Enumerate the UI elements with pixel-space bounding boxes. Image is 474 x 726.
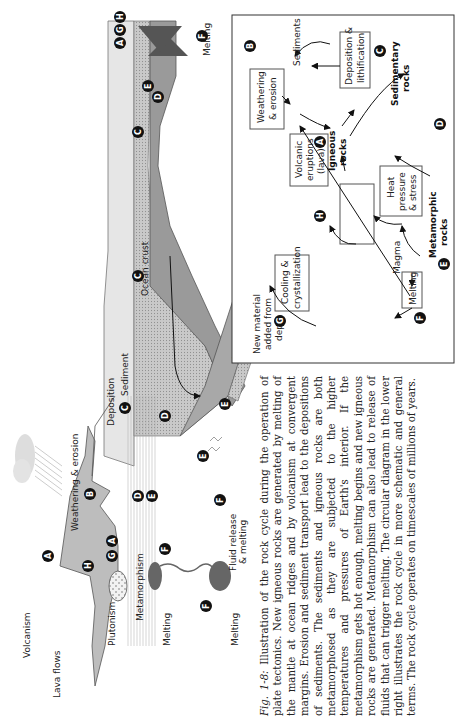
label-fluid-release-1: Fluid release <box>228 513 238 571</box>
cycle-badge-e: E <box>438 258 450 270</box>
cycle-metamorphic-1: Metamorphic <box>428 191 438 258</box>
badge-f-melt2: F <box>200 600 212 612</box>
cycle-heat-2: pressure <box>397 172 407 211</box>
cycle-heat-3: & stress <box>408 174 418 211</box>
label-metamorphism-left: Metamorphism <box>135 553 145 621</box>
badge-b-weathering: B <box>84 488 96 500</box>
cycle-metamorphic-2: rocks <box>439 219 449 246</box>
cycle-badge-d: D <box>434 118 446 130</box>
badge-c-sediment: C <box>132 270 144 282</box>
svg-text:F: F <box>198 34 207 39</box>
cycle-volcanic-2: eruptions <box>305 138 315 181</box>
cycle-badge-g: G <box>274 315 286 327</box>
svg-text:D: D <box>154 93 163 100</box>
cycle-magma: Magma <box>392 241 402 274</box>
figure-caption: Fig. 1-8: Illustration of the rock cycle… <box>258 376 419 716</box>
svg-text:E: E <box>148 494 157 499</box>
cycle-volcanic-3: (lava) <box>316 148 326 174</box>
svg-text:C: C <box>376 48 385 54</box>
svg-text:F: F <box>416 316 425 321</box>
label-weathering-erosion: Weathering & erosion <box>70 434 80 532</box>
svg-text:A: A <box>316 138 325 145</box>
svg-text:D: D <box>436 120 445 127</box>
svg-text:G: G <box>108 552 117 559</box>
cycle-badge-c: C <box>374 45 386 57</box>
svg-text:H: H <box>84 562 93 569</box>
label-melting-lower: Melting <box>230 613 240 646</box>
badge-e-meta: E <box>146 490 158 502</box>
caption-body: Illustration of the rock cycle during th… <box>259 376 417 716</box>
cycle-igneous-2: rocks <box>338 139 348 166</box>
cycle-badge-a: A <box>314 136 326 148</box>
cycle-sediments: Sediments <box>292 18 302 66</box>
svg-text:C: C <box>121 405 130 411</box>
svg-text:E: E <box>144 84 153 89</box>
badge-c-ridge: C <box>132 126 144 138</box>
cycle-heat-1: Heat <box>386 176 396 198</box>
svg-text:G: G <box>116 26 125 33</box>
svg-text:B: B <box>246 43 255 49</box>
badge-f-fluid: F <box>214 494 226 506</box>
cycle-deposition-2: lithification <box>356 33 366 83</box>
cycle-weathering-2: & erosion <box>268 77 278 120</box>
svg-text:H: H <box>316 212 325 219</box>
svg-text:E: E <box>199 454 208 459</box>
svg-text:D: D <box>134 492 143 499</box>
cycle-badge-b: B <box>244 40 256 52</box>
svg-text:C: C <box>134 273 143 279</box>
badge-c-deposition: C <box>119 402 131 414</box>
svg-text:F: F <box>216 498 225 503</box>
label-ocean-crust: Ocean crust <box>140 241 150 296</box>
cycle-new-material-2: added from <box>263 298 273 350</box>
badge-h-volcano: H <box>82 560 94 572</box>
badge-a-ridge: A <box>114 37 126 49</box>
svg-text:D: D <box>161 412 170 419</box>
cycle-badge-f: F <box>414 312 426 324</box>
svg-text:B: B <box>86 491 95 497</box>
cycle-sedimentary-2: rocks <box>401 65 411 92</box>
label-fluid-release-2: & melting <box>238 520 248 564</box>
label-volcanism: Volcanism <box>22 612 32 658</box>
cycle-cooling-2: crystallization <box>292 246 302 309</box>
svg-text:A: A <box>44 552 53 559</box>
cycle-new-material-1: New material <box>252 294 262 354</box>
badge-a-volcano: A <box>42 550 54 562</box>
rock-cycle-diagram: Igneous rocks Weathering & erosion Sedim… <box>232 15 454 363</box>
badge-d-meta: D <box>132 490 144 502</box>
badge-f-ridge: F <box>196 30 208 42</box>
label-melting-left: Melting <box>162 613 172 646</box>
label-plutonism: Plutonism <box>107 602 117 646</box>
cycle-cooling-1: Cooling & <box>280 260 290 304</box>
svg-text:E: E <box>440 262 449 267</box>
svg-text:F: F <box>161 547 170 552</box>
badge-e-fluid: E <box>197 450 209 462</box>
badge-h-ridge: H <box>114 11 126 23</box>
svg-text:G: G <box>276 317 285 324</box>
cycle-badge-h: H <box>314 210 326 222</box>
svg-text:A: A <box>108 537 117 544</box>
cycle-igneous-1: Igneous <box>327 131 337 171</box>
cycle-weathering-1: Weathering <box>256 71 266 123</box>
svg-text:F: F <box>202 604 211 609</box>
badge-a-pluton: A <box>106 535 118 547</box>
cycle-deposition-1: Deposition & <box>344 27 354 85</box>
badge-f-melt1: F <box>159 543 171 555</box>
badge-d-ridge: D <box>152 91 164 103</box>
label-deposition: Deposition <box>106 378 116 426</box>
svg-text:A: A <box>116 39 125 46</box>
badge-g-pluton: G <box>106 550 118 562</box>
rain-cloud-icon <box>13 434 62 496</box>
badge-e-slab: E <box>219 398 231 410</box>
svg-text:H: H <box>116 13 125 20</box>
cycle-volcanic-1: Volcanic <box>294 141 304 178</box>
badge-g-ridge: G <box>114 24 126 36</box>
cycle-melting: Melting <box>408 272 418 305</box>
badge-d-slab: D <box>159 410 171 422</box>
rotated-figure-page: Volcanism Lava flows Plutonism Weatherin… <box>0 0 474 726</box>
label-lava-flows: Lava flows <box>52 650 62 698</box>
svg-text:C: C <box>134 129 143 135</box>
cycle-sedimentary-1: Sedimentary <box>390 41 400 106</box>
label-sediment: Sediment <box>120 353 130 396</box>
caption-prefix: Fig. 1-8: <box>259 670 270 716</box>
badge-e-ridge: E <box>142 80 154 92</box>
